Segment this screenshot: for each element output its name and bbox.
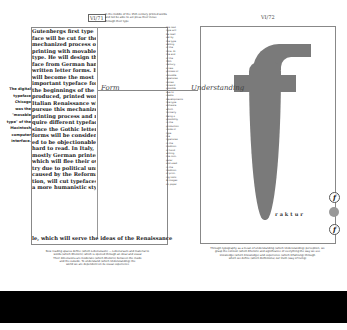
globe-icon[interactable] (329, 207, 339, 217)
f-letter-icon[interactable]: f (329, 192, 340, 203)
text-line: world we are dependent on its visual exp… (30, 263, 165, 266)
fraktur-label: raktur (275, 211, 305, 217)
text-line: type. He will design this (32, 54, 96, 61)
right-margin-column: the nexttype willbe itselfset bythe type… (166, 26, 182, 186)
right-page-number: VI/72 (261, 14, 275, 20)
text-line: which will flee their own (32, 158, 96, 165)
body-text-block: Gutenbergs first typeface will be cut fo… (32, 28, 96, 191)
text-line: interface. (0, 138, 31, 145)
side-note-chicago: The digitaltypefaceChicagowas the"movabl… (0, 86, 31, 145)
left-caption: New reading spaces define (which Lebensr… (30, 250, 165, 266)
text-line: caused by the Reforma (32, 171, 96, 178)
inner-column-rule (97, 27, 166, 239)
text-line: written letter forms. It (32, 67, 96, 74)
text-line: hard to read. In Italy, (32, 145, 96, 152)
body-bottom-line: le, which will serve the ideas of the Re… (32, 235, 166, 241)
text-line: forms will be consider (32, 132, 96, 139)
text-line: pursue this mechanized (32, 106, 96, 113)
text-line: produced, printed work. (32, 93, 96, 100)
text-line: which we define (which Definitions) our … (200, 257, 335, 260)
form-label: Form (101, 84, 120, 92)
text-line: quire different typefaces, (32, 119, 96, 126)
text-line: important typeface for (32, 80, 96, 87)
black-footer-bar (0, 291, 347, 323)
text-line: a more humanistic sty (32, 184, 96, 191)
text-line: on paper (166, 183, 182, 186)
left-header-note: In the middle of the 15th century printe… (105, 13, 167, 23)
text-line: Gutenbergs first type (32, 28, 96, 35)
right-caption: Through typography as a mean of understa… (200, 247, 335, 260)
left-page-number: VI/71 (88, 14, 106, 22)
text-line: mechanized process of (32, 41, 96, 48)
f-letter-icon[interactable]: f (329, 224, 340, 235)
understanding-label: Understanding (191, 84, 244, 92)
f-glyph-hook-counter (281, 57, 311, 72)
